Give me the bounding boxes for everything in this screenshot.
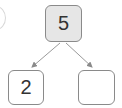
whole-box: 5	[45, 5, 82, 42]
arrow-to-right-part	[66, 43, 92, 67]
left-part-value: 2	[20, 76, 31, 99]
arrow-to-left-part	[32, 43, 60, 67]
whole-value: 5	[58, 12, 69, 35]
left-part-box: 2	[8, 70, 44, 105]
right-part-box[interactable]	[78, 70, 115, 105]
